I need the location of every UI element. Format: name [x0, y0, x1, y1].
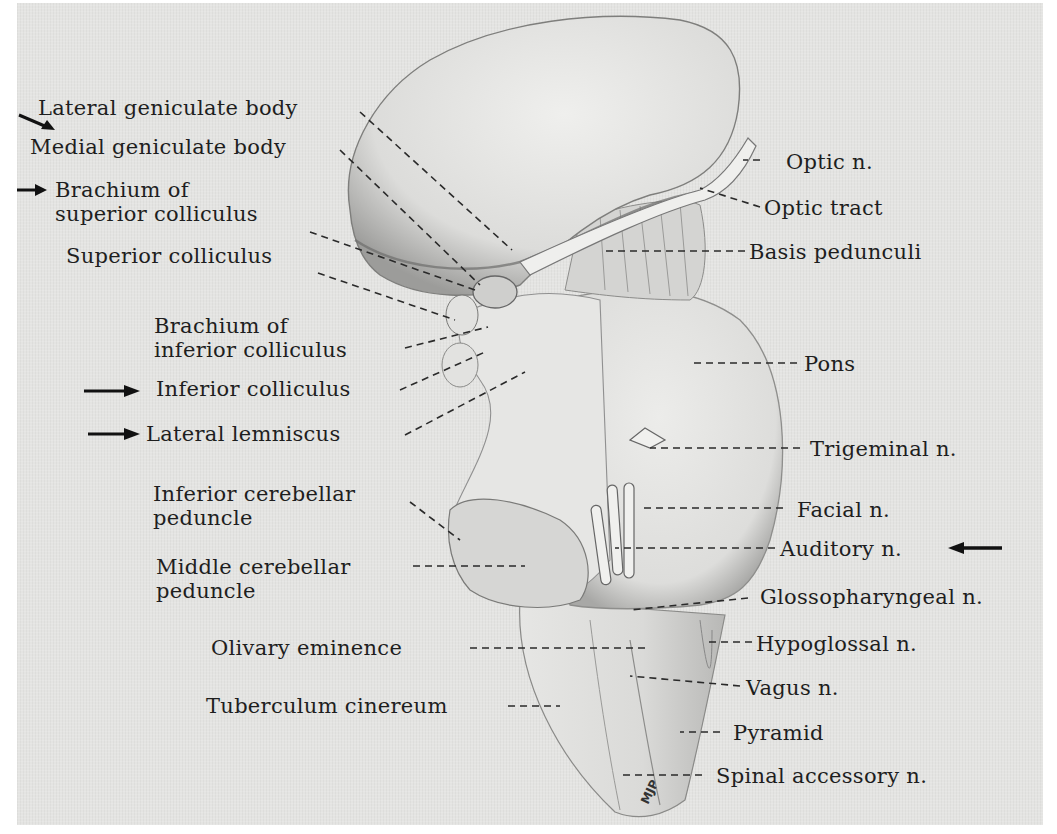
- medulla-shape: [520, 600, 725, 817]
- brainstem-drawing: MJP: [0, 0, 1057, 834]
- label-trigeminal-n: Trigeminal n.: [810, 437, 957, 461]
- arrow-inferior-colliculus-icon: [84, 383, 142, 399]
- label-optic-tract: Optic tract: [764, 196, 883, 220]
- label-brachium-superior-colliculus: Brachium ofsuperior colliculus: [55, 178, 258, 226]
- label-spinal-accessory-n: Spinal accessory n.: [716, 764, 927, 788]
- label-auditory-n: Auditory n.: [780, 537, 902, 561]
- midbrain-shape: [448, 293, 610, 607]
- label-middle-cerebellar-peduncle: Middle cerebellarpeduncle: [156, 555, 351, 603]
- label-medial-geniculate-body: Medial geniculate body: [30, 135, 286, 159]
- arrow-auditory-icon: [946, 540, 1004, 556]
- label-lateral-lemniscus: Lateral lemniscus: [146, 422, 341, 446]
- label-basis-pedunculi: Basis pedunculi: [749, 240, 921, 264]
- label-vagus-n: Vagus n.: [746, 676, 839, 700]
- label-optic-n: Optic n.: [786, 150, 873, 174]
- label-inferior-colliculus: Inferior colliculus: [156, 377, 351, 401]
- label-brachium-inferior-colliculus: Brachium ofinferior colliculus: [154, 314, 347, 362]
- label-pons: Pons: [804, 352, 855, 376]
- label-pyramid: Pyramid: [733, 721, 824, 745]
- arrow-lateral-lemniscus-icon: [88, 426, 142, 442]
- label-olivary-eminence: Olivary eminence: [211, 636, 402, 660]
- label-tuberculum-cinereum: Tuberculum cinereum: [206, 694, 448, 718]
- label-glossopharyngeal-n: Glossopharyngeal n.: [760, 585, 983, 609]
- label-inferior-cerebellar-peduncle: Inferior cerebellarpeduncle: [153, 482, 355, 530]
- label-facial-n: Facial n.: [797, 498, 890, 522]
- label-lateral-geniculate-body: Lateral geniculate body: [38, 96, 298, 120]
- arrow-brachium-superior-icon: [17, 182, 49, 198]
- label-hypoglossal-n: Hypoglossal n.: [756, 632, 917, 656]
- label-superior-colliculus: Superior colliculus: [66, 244, 272, 268]
